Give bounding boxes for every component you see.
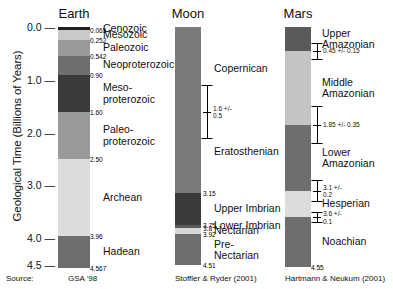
boundary-age-earth-2: 0.542 [90, 52, 106, 59]
error-mid-mars-2 [313, 191, 321, 192]
error-text-mars-0: 0.45 +/- 0.15 [323, 47, 360, 55]
boundary-age-moon-1: 3.15 [203, 190, 216, 197]
era-label-moon-1: Eratosthenian [214, 147, 279, 159]
band-earth-3 [58, 56, 90, 75]
error-cap-mars-3-0 [312, 212, 323, 213]
error-cap-mars-0-0 [312, 43, 323, 44]
boundary-age-earth-6: 3.96 [90, 233, 103, 240]
band-earth-7 [58, 236, 90, 268]
error-mid-mars-1 [313, 125, 321, 126]
era-label-earth-4: Meso- proterozoic [103, 82, 155, 105]
y-tick-4-5: 4.5 — [3, 259, 55, 271]
error-mid-mars-0 [313, 51, 321, 52]
y-tick-2-0: 2.0 — [3, 127, 55, 139]
era-label-earth-7: Hadean [103, 246, 140, 258]
y-tick-3-0: 3.0 — [3, 179, 55, 191]
era-label-earth-3: Neoproterozoic [103, 59, 174, 71]
band-mars-4 [285, 217, 311, 267]
band-earth-4 [58, 75, 90, 112]
source-caption: Source: [6, 274, 34, 283]
era-label-moon-5: Pre- Nectarian [214, 238, 259, 261]
band-moon-0 [175, 27, 201, 112]
column-moon [175, 27, 201, 265]
column-title-earth: Earth [58, 6, 89, 21]
band-moon-2 [175, 193, 201, 225]
y-axis-ticks: 0.0 —1.0 —2.0 —3.0 —4.0 —4.5 — [0, 0, 55, 289]
era-label-mars-1: Middle Amazonian [322, 76, 375, 99]
error-text-mars-3: 3.6 +/- 0.1 [323, 210, 342, 225]
boundary-age-moon-4: 3.92 [203, 231, 216, 238]
error-cap-mars-2-0 [312, 180, 323, 181]
boundary-age-earth-3: 0.90 [90, 71, 103, 78]
source-mars: Hartmann & Neukum (2001) [285, 274, 385, 283]
column-title-mars: Mars [284, 6, 313, 21]
era-label-earth-5: Paleo- proterozoic [103, 124, 155, 147]
era-label-moon-0: Copernican [214, 64, 268, 76]
error-cap-moon-0-1 [202, 138, 213, 139]
source-earth: GSA '98 [68, 274, 97, 283]
error-cap-mars-1-0 [312, 106, 323, 107]
band-earth-1 [58, 30, 90, 40]
error-cap-mars-3-1 [312, 222, 323, 223]
column-earth [58, 27, 90, 268]
era-label-mars-4: Noachian [322, 237, 366, 249]
band-earth-2 [58, 40, 90, 55]
boundary-age-earth-4: 1.60 [90, 108, 103, 115]
error-cap-mars-1-1 [312, 143, 323, 144]
band-mars-1 [285, 51, 311, 125]
error-text-moon-0: 1.6 +/- 0.5 [213, 104, 232, 119]
era-label-moon-2: Upper Imbrian [214, 204, 281, 216]
geological-timescale-figure: Geological Time (Billions of Years) 0.0 … [0, 0, 393, 289]
band-moon-5 [175, 234, 201, 265]
boundary-age-moon-5: 4.51 [203, 262, 216, 269]
band-earth-5 [58, 112, 90, 160]
error-mid-moon-0 [203, 112, 211, 113]
era-label-moon-4: Nectarian [214, 225, 259, 237]
y-tick-0-0: 0.0 — [3, 21, 55, 33]
error-cap-mars-2-1 [312, 201, 323, 202]
boundary-age-earth-7: 4.567 [90, 265, 106, 272]
error-cap-moon-0-0 [202, 85, 213, 86]
era-label-mars-2: Lower Amazonian [322, 146, 375, 169]
band-moon-1 [175, 112, 201, 194]
era-label-earth-2: Paleozoic [103, 42, 149, 54]
column-title-moon: Moon [172, 6, 205, 21]
boundary-age-earth-5: 2.50 [90, 156, 103, 163]
band-mars-2 [285, 125, 311, 191]
source-moon: Stoffler & Ryder (2001) [175, 274, 257, 283]
column-mars [285, 27, 311, 267]
boundary-age-earth-0: 0.065 [90, 27, 106, 34]
error-cap-mars-0-1 [312, 59, 323, 60]
boundary-age-earth-1: 0.252 [90, 37, 106, 44]
error-mid-mars-3 [313, 217, 321, 218]
error-text-mars-1: 1.85 +/- 0.35 [323, 121, 360, 129]
y-tick-4-0: 4.0 — [3, 232, 55, 244]
era-label-earth-1: Mesozoic [103, 30, 147, 42]
era-label-mars-3: Hesperian [322, 198, 370, 210]
band-mars-3 [285, 191, 311, 217]
boundary-age-mars-4: 4.55 [311, 264, 324, 271]
band-earth-6 [58, 159, 90, 236]
y-tick-1-0: 1.0 — [3, 74, 55, 86]
band-mars-0 [285, 27, 311, 51]
era-label-earth-6: Archean [103, 192, 142, 204]
error-text-mars-2: 3.1 +/- 0.2 [323, 183, 342, 198]
